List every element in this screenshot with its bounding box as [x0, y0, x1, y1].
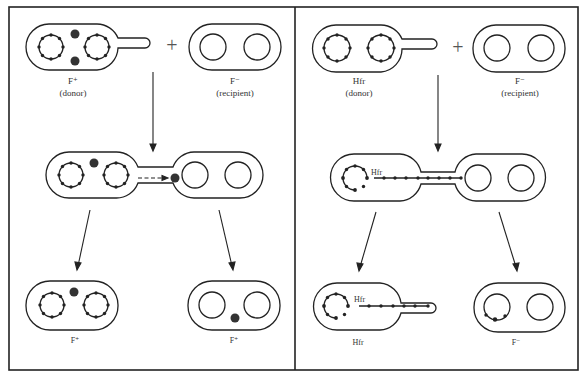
chromosome-fragment-dots	[484, 313, 506, 321]
left-panel: F⁺ (donor) + F⁻ (recipient)	[26, 24, 281, 345]
result-arrows	[75, 210, 235, 270]
down-arrow	[435, 75, 441, 151]
f-plasmid	[71, 30, 80, 66]
right-panel: Hfr (donor) + F⁻ (recipient)	[313, 25, 565, 347]
result-cell-fminus	[474, 283, 565, 332]
hfr-chromosome	[343, 166, 461, 190]
chromosome-dots	[322, 33, 395, 62]
result-left-label: F⁺	[71, 336, 80, 345]
recipient-sublabel: (recipient)	[216, 88, 253, 98]
recipient-label: F⁻	[230, 76, 240, 86]
transfer-arrow	[138, 176, 168, 181]
result-cell-hfr	[314, 283, 437, 330]
donor-label: F⁺	[68, 76, 78, 86]
recipient-cell-fminus	[473, 25, 565, 72]
result-left-label: Hfr	[352, 338, 363, 347]
donor-label: Hfr	[353, 76, 366, 86]
donor-sublabel: (donor)	[346, 88, 373, 98]
result-right-label: F⁺	[230, 336, 239, 345]
down-arrow	[150, 72, 156, 151]
result-cell-fplus-right	[188, 281, 280, 330]
mating-pair	[46, 152, 263, 198]
donor-sublabel: (donor)	[60, 88, 87, 98]
figure-frame	[9, 7, 578, 370]
hfr-chromosome-label: Hfr	[371, 168, 382, 177]
f-plasmid	[70, 288, 79, 297]
recipient-cell-fminus	[189, 24, 281, 70]
recipient-sublabel: (recipient)	[501, 88, 538, 98]
conjugation-figure: F⁺ (donor) + F⁻ (recipient)	[0, 0, 587, 376]
donor-cell-fplus	[26, 24, 150, 70]
plus-sign: +	[452, 36, 463, 58]
result-arrows	[357, 212, 519, 271]
result-right-label: F⁻	[512, 338, 521, 347]
hfr-chromosome-label: Hfr	[354, 295, 365, 304]
recipient-label: F⁻	[515, 76, 525, 86]
donor-cell-hfr	[313, 25, 437, 72]
f-plasmid	[231, 314, 240, 323]
plus-sign: +	[166, 34, 177, 56]
